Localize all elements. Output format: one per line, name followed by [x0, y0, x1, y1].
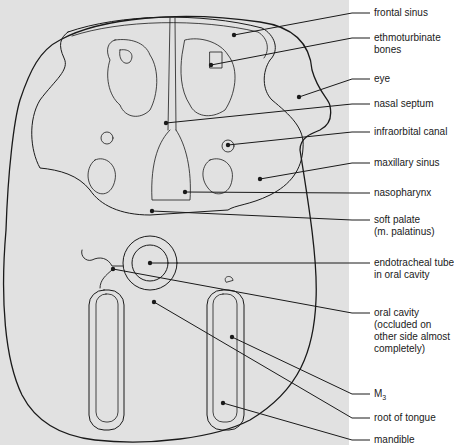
leader-dot-maxillary-sinus — [258, 177, 262, 181]
label-m3: M3 — [374, 388, 386, 404]
label-nasal-septum: nasal septum — [374, 98, 433, 110]
label-eye: eye — [374, 73, 390, 85]
leader-dot-mandible — [221, 401, 225, 405]
leader-dot-eye — [297, 95, 301, 99]
label-endotracheal-tube: endotracheal tube in oral cavity — [374, 257, 454, 281]
leader-dot-nasopharynx — [183, 190, 187, 194]
leader-line-mandible — [223, 403, 370, 440]
leader-dot-infraorbital-canal — [226, 143, 230, 147]
label-infraorbital-canal: infraorbital canal — [374, 126, 447, 138]
label-mandible: mandible — [374, 434, 415, 445]
leader-dot-root-of-tongue — [152, 300, 156, 304]
label-root-of-tongue: root of tongue — [374, 412, 436, 424]
label-oral-cavity: oral cavity (occluded on other side almo… — [374, 307, 450, 355]
leader-line-infraorbital-canal — [228, 132, 370, 145]
leader-dot-frontal-sinus — [232, 33, 236, 37]
leader-dot-soft-palate — [150, 209, 154, 213]
leader-line-root-of-tongue — [154, 302, 370, 418]
leader-dot-nasal-septum — [164, 121, 168, 125]
label-nasopharynx: nasopharynx — [374, 187, 431, 199]
leader-line-oral-cavity — [113, 269, 370, 313]
leader-line-maxillary-sinus — [260, 163, 370, 179]
leader-dot-ethmoturbinate-bones — [209, 63, 213, 67]
leader-line-eye — [299, 79, 370, 97]
label-frontal-sinus: frontal sinus — [374, 7, 428, 19]
leader-line-soft-palate — [152, 211, 370, 220]
leader-dot-m3 — [230, 335, 234, 339]
leader-line-ethmoturbinate-bones — [211, 38, 370, 65]
leader-line-nasal-septum — [166, 104, 370, 123]
leader-line-m3 — [232, 337, 370, 394]
label-ethmoturbinate-bones: ethmoturbinate bones — [374, 32, 441, 56]
label-soft-palate: soft palate (m. palatinus) — [374, 214, 435, 238]
label-maxillary-sinus: maxillary sinus — [374, 157, 440, 169]
leader-line-frontal-sinus — [234, 13, 370, 35]
leader-dot-endotracheal-tube — [148, 261, 152, 265]
leader-line-nasopharynx — [185, 192, 370, 193]
leader-dot-oral-cavity — [111, 267, 115, 271]
